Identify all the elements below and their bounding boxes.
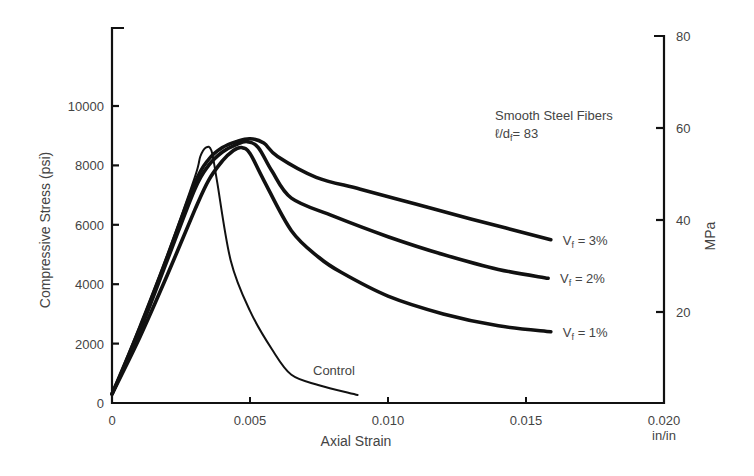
- y2-axis-title: MPa: [702, 221, 718, 250]
- label-vf-2: Vf = 2%: [560, 271, 605, 288]
- y-tick-label: 10000: [68, 99, 104, 114]
- curve-control: [112, 147, 358, 395]
- x-tick-label: 0.015: [510, 413, 543, 428]
- curve-vf-1: [112, 147, 551, 394]
- axes: [112, 28, 664, 403]
- y-axis-title: Compressive Stress (psi): [37, 152, 53, 308]
- x-axis-title: Axial Strain: [321, 433, 392, 449]
- aspect-ratio-value: = 83: [513, 126, 539, 141]
- y-tick-label: 6000: [75, 218, 104, 233]
- axis-frame: [112, 28, 664, 403]
- aspect-ratio-label: ℓ/d: [495, 126, 510, 141]
- x-tick-label: 0: [108, 413, 115, 428]
- ticks: 00.0050.0100.0150.0200200040006000800010…: [68, 29, 691, 428]
- y2-tick-label: 40: [676, 213, 690, 228]
- y-tick-label: 8000: [75, 158, 104, 173]
- x-tick-label: 0.005: [234, 413, 267, 428]
- x-axis-unit: in/in: [652, 428, 676, 443]
- label-control: Control: [313, 363, 355, 378]
- label-vf-1: Vf = 1%: [563, 325, 608, 342]
- y-tick-label: 0: [97, 396, 104, 411]
- aspect-ratio-annotation: ℓ/df= 83: [495, 126, 538, 143]
- x-tick-label: 0.010: [372, 413, 405, 428]
- curves: [112, 139, 551, 395]
- stress-strain-chart: 00.0050.0100.0150.0200200040006000800010…: [0, 0, 754, 476]
- curve-vf-2: [112, 142, 548, 395]
- y2-tick-label: 80: [676, 29, 690, 44]
- y-tick-label: 2000: [75, 337, 104, 352]
- y2-tick-label: 60: [676, 121, 690, 136]
- labels: ControlVf = 3%Vf = 2%Vf = 1%: [313, 233, 608, 378]
- label-vf-3: Vf = 3%: [563, 233, 608, 250]
- y-tick-label: 4000: [75, 277, 104, 292]
- x-tick-label: 0.020: [648, 413, 681, 428]
- fiber-type-annotation: Smooth Steel Fibers: [495, 108, 613, 123]
- y2-tick-label: 20: [676, 305, 690, 320]
